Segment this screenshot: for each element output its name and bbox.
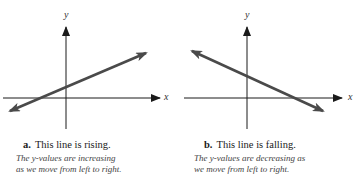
falling-line	[192, 51, 323, 111]
description-line-2: as we move from left to right.	[16, 164, 121, 175]
description-line-2: we move from left to right.	[194, 164, 305, 175]
y-axis-label: y	[245, 9, 249, 20]
x-axis-label: x	[348, 91, 352, 102]
y-axis-label: y	[64, 9, 68, 20]
caption-description: The y-values are increasing as we move f…	[16, 153, 121, 175]
caption-text: This line is falling.	[216, 139, 295, 150]
caption-title: b.This line is falling.	[204, 139, 296, 151]
caption-description: The y-values are decreasing as we move f…	[194, 153, 305, 175]
rising-line	[10, 53, 146, 111]
description-line-1: The y-values are increasing	[16, 153, 121, 164]
caption-letter: a.	[23, 139, 31, 150]
panel-falling: y x b.This line is falling. The y-values…	[180, 0, 360, 179]
description-line-1: The y-values are decreasing as	[194, 153, 305, 164]
caption-text: This line is rising.	[35, 139, 111, 150]
caption-letter: b.	[204, 139, 212, 150]
caption-title: a.This line is rising.	[23, 139, 111, 151]
x-axis-label: x	[164, 91, 168, 102]
panel-rising: y x a.This line is rising. The y-values …	[0, 0, 180, 179]
